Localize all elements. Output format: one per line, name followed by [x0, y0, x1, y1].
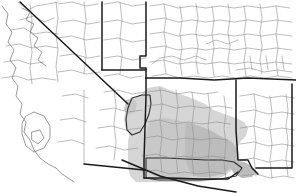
- map-container: Southwestern United States county map Bl…: [0, 0, 296, 193]
- map-canvas: Southwestern United States county map Bl…: [0, 0, 296, 193]
